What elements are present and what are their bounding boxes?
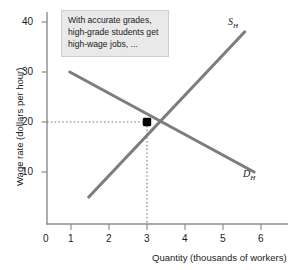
annotation-line-1: With accurate grades, xyxy=(68,15,163,27)
supply-curve xyxy=(89,32,245,197)
x-tick-label-5: 5 xyxy=(220,233,226,244)
x-tick-label-1: 1 xyxy=(68,233,74,244)
demand-label-subscript: H xyxy=(250,174,255,182)
annotation-line-3: high-wage jobs, ... xyxy=(68,39,163,51)
x-tick-label-4: 4 xyxy=(182,233,188,244)
x-axis-title: Quantity (thousands of workers) xyxy=(152,252,287,263)
x-tick-label-2: 2 xyxy=(106,233,112,244)
equilibrium-point-marker xyxy=(143,118,151,126)
demand-curve-label: DH xyxy=(243,168,255,182)
wage-supply-demand-chart: 40 30 20 10 0 1 2 3 4 5 6 Wage rate (dol… xyxy=(0,0,291,270)
x-tick-label-6: 6 xyxy=(258,233,264,244)
grades-note-annotation: With accurate grades, high-grade student… xyxy=(61,10,169,57)
x-tick-label-0: 0 xyxy=(43,233,49,244)
y-axis-title: Wage rate (dollars per hour) xyxy=(14,68,25,186)
y-tick-label-40: 40 xyxy=(22,16,33,27)
x-tick-label-3: 3 xyxy=(144,233,150,244)
supply-label-subscript: H xyxy=(233,22,238,30)
supply-curve-label: SH xyxy=(228,16,238,30)
annotation-line-2: high-grade students get xyxy=(68,27,163,39)
